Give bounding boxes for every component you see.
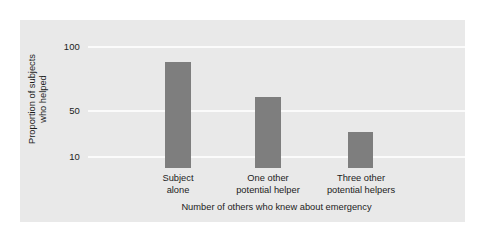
x-category-label-line-2: alone	[133, 185, 223, 197]
y-axis-title-line-2: who helped	[38, 24, 49, 174]
x-axis-title: Number of others who knew about emergenc…	[88, 202, 465, 213]
x-category-label-line-1: Subject	[133, 173, 223, 185]
x-category-label-line-1: Three other	[306, 173, 416, 185]
gridline-100	[88, 46, 465, 48]
chart-figure: 100 50 10 Proportion of subjects who hel…	[0, 0, 490, 245]
bar-three-other-potential-helpers	[348, 132, 373, 168]
x-category-label-subject-alone: Subject alone	[133, 173, 223, 196]
y-tick-label-50: 50	[46, 106, 80, 116]
x-category-label-line-2: potential helpers	[306, 185, 416, 197]
y-tick-label-10: 10	[46, 152, 80, 162]
bar-one-other-potential-helper	[255, 97, 281, 168]
plot-panel: 100 50 10 Proportion of subjects who hel…	[20, 20, 465, 222]
bar-subject-alone	[165, 62, 191, 168]
x-category-label-three-other-potential-helpers: Three other potential helpers	[306, 173, 416, 196]
y-tick-label-100: 100	[46, 42, 80, 52]
y-axis-title-line-1: Proportion of subjects	[27, 24, 38, 174]
y-axis-title: Proportion of subjects who helped	[27, 24, 49, 174]
